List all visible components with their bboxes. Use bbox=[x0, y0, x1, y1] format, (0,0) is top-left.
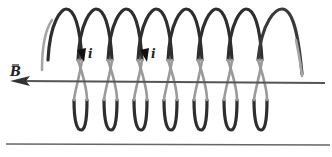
coil-back bbox=[48, 9, 302, 130]
current-label-2: i bbox=[151, 47, 156, 61]
solenoid-diagram: B i i bbox=[0, 0, 332, 157]
field-label: B bbox=[9, 64, 21, 79]
baseline-rule bbox=[6, 144, 330, 145]
current-label-1: i bbox=[88, 47, 93, 61]
